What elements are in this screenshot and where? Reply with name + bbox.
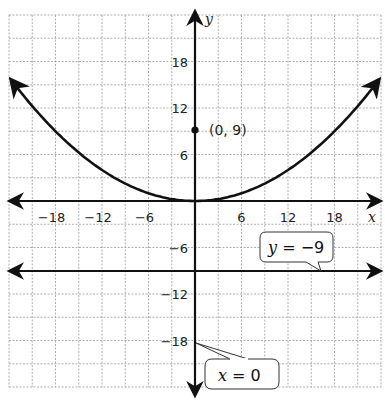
y-tick-label: −12 (161, 287, 188, 302)
x-tick-label: −18 (38, 210, 65, 225)
svg-text:x = 0: x = 0 (218, 366, 261, 385)
focus-point (191, 126, 198, 133)
x-tick-label: 12 (280, 210, 297, 225)
x-tick-label: −6 (135, 210, 154, 225)
y-axis-label: y (204, 11, 214, 27)
y-tick-label: −6 (169, 241, 188, 256)
axis-callout-var: x (218, 366, 227, 385)
directrix-callout: y = −9 (260, 232, 333, 271)
x-tick-label: 18 (326, 210, 343, 225)
x-tick-label: 6 (237, 210, 245, 225)
y-tick-label: 12 (171, 101, 188, 116)
focus-point-label: (0, 9) (209, 122, 247, 138)
y-tick-label: 18 (171, 55, 188, 70)
y-tick-label: 6 (180, 148, 188, 163)
axis-of-symmetry-callout: x = 0 (196, 343, 279, 389)
y-tick-label: −18 (161, 334, 188, 349)
x-axis-label: x (368, 209, 376, 225)
directrix-callout-text: = −9 (277, 238, 324, 257)
svg-text:y = −9: y = −9 (267, 238, 324, 257)
axis-callout-text: = 0 (227, 366, 261, 385)
x-tick-label: −12 (84, 210, 111, 225)
x-tick-labels: −18−12−661218 (38, 210, 343, 225)
graph-canvas: −18−12−661218 18126−6−12−18 x y (0, 9) y… (0, 0, 385, 400)
